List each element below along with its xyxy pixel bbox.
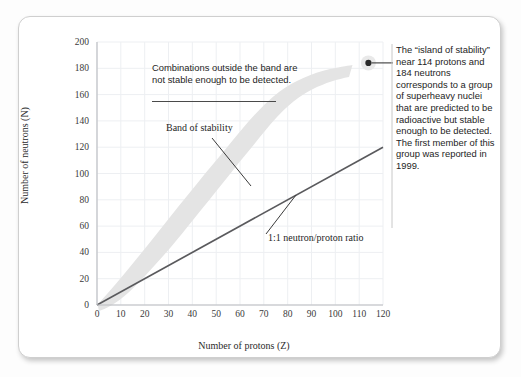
x-tick-20: 20 <box>132 309 158 319</box>
x-tick-40: 40 <box>179 309 205 319</box>
y-tick-200: 200 <box>63 37 89 47</box>
y-tick-160: 160 <box>63 90 89 100</box>
x-tick-120: 120 <box>370 309 396 319</box>
x-tick-0: 0 <box>84 309 110 319</box>
y-tick-40: 40 <box>63 247 89 257</box>
y-axis-title-text: Number of neutrons (N) <box>19 107 30 204</box>
x-tick-60: 60 <box>227 309 253 319</box>
y-tick-20: 20 <box>63 274 89 284</box>
y-tick-60: 60 <box>63 221 89 231</box>
y-axis-title: Number of neutrons (N) <box>19 101 30 211</box>
y-tick-80: 80 <box>63 195 89 205</box>
x-tick-70: 70 <box>251 309 277 319</box>
x-axis-title-text: Number of protons (Z) <box>198 340 289 351</box>
y-tick-140: 140 <box>63 116 89 126</box>
top-callout-text: Combinations outside the band are not st… <box>152 62 302 85</box>
y-tick-180: 180 <box>63 63 89 73</box>
ratio-label: 1:1 neutron/proton ratio <box>268 232 364 243</box>
x-tick-10: 10 <box>108 309 134 319</box>
x-tick-100: 100 <box>322 309 348 319</box>
x-tick-30: 30 <box>156 309 182 319</box>
x-tick-80: 80 <box>275 309 301 319</box>
island-of-stability-callout-text: The “island of stability” near 114 proto… <box>396 44 495 172</box>
island-of-stability-dot[interactable] <box>365 60 371 66</box>
y-tick-120: 120 <box>63 142 89 152</box>
x-axis-title: Number of protons (Z) <box>144 340 344 351</box>
x-tick-50: 50 <box>203 309 229 319</box>
y-tick-100: 100 <box>63 169 89 179</box>
x-tick-110: 110 <box>346 309 372 319</box>
band-of-stability-label: Band of stability <box>166 122 233 133</box>
x-tick-90: 90 <box>299 309 325 319</box>
